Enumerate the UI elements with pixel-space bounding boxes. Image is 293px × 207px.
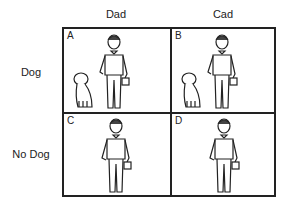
man-figure-icon [96, 114, 136, 194]
cell-c: C [64, 114, 170, 195]
column-label-dad: Dad [86, 8, 146, 20]
man-figure-icon [94, 30, 134, 110]
cell-letter: A [67, 30, 74, 41]
man-figure-icon [204, 114, 244, 194]
cell-letter: D [175, 115, 182, 126]
row-label-no-dog: No Dog [0, 148, 62, 160]
cell-b: B [172, 29, 276, 112]
two-by-two-grid: A B [62, 27, 276, 197]
dog-icon [72, 71, 98, 111]
cell-letter: C [67, 115, 74, 126]
dog-icon [180, 71, 206, 111]
cell-a: A [64, 29, 170, 112]
cell-letter: B [175, 30, 182, 41]
row-label-dog: Dog [0, 66, 62, 78]
man-figure-icon [202, 30, 242, 110]
column-label-cad: Cad [193, 8, 253, 20]
cell-d: D [172, 114, 276, 195]
